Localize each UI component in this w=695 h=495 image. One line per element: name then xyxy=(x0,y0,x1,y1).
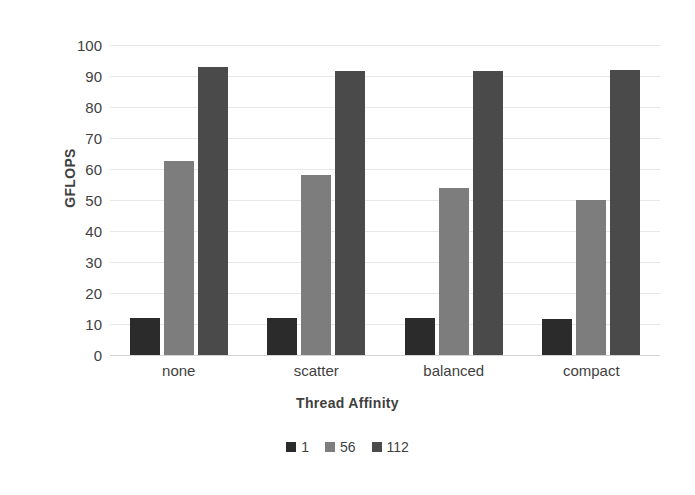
legend-item-1[interactable]: 1 xyxy=(286,440,309,454)
legend-swatch-icon xyxy=(286,442,296,452)
gridline xyxy=(110,355,660,356)
y-axis-tick-label: 10 xyxy=(56,316,102,333)
bar-group xyxy=(110,45,248,355)
bar-chart: GFLOPS 1009080706050403020100 nonescatte… xyxy=(0,0,695,495)
plot-area xyxy=(110,45,660,355)
y-axis-tick-label: 90 xyxy=(56,68,102,85)
bar-compact-112 xyxy=(610,70,640,355)
legend-label: 112 xyxy=(387,440,409,454)
x-axis-category-label: none xyxy=(162,362,195,379)
x-axis-category-label: compact xyxy=(563,362,620,379)
bar-balanced-1 xyxy=(405,318,435,355)
bar-scatter-1 xyxy=(267,318,297,355)
bar-compact-56 xyxy=(576,200,606,355)
legend-label: 56 xyxy=(340,440,356,454)
y-axis-tick-label: 40 xyxy=(56,223,102,240)
bar-balanced-56 xyxy=(439,188,469,355)
y-axis-tick-label: 30 xyxy=(56,254,102,271)
x-axis-category-labels: nonescatterbalancedcompact xyxy=(110,362,660,388)
y-axis-tick-labels: 1009080706050403020100 xyxy=(46,45,102,355)
bar-scatter-112 xyxy=(335,71,365,355)
y-axis-tick-label: 50 xyxy=(56,192,102,209)
y-axis-tick-label: 0 xyxy=(56,347,102,364)
x-axis-category-label: scatter xyxy=(294,362,339,379)
y-axis-tick-label: 20 xyxy=(56,285,102,302)
legend-item-56[interactable]: 56 xyxy=(325,440,356,454)
chart-legend: 156112 xyxy=(0,440,695,454)
bar-balanced-112 xyxy=(473,71,503,355)
bar-none-112 xyxy=(198,67,228,355)
x-axis-category-label: balanced xyxy=(423,362,484,379)
x-axis-title: Thread Affinity xyxy=(0,395,695,411)
bar-scatter-56 xyxy=(301,175,331,355)
legend-swatch-icon xyxy=(372,442,382,452)
bar-group xyxy=(248,45,386,355)
y-axis-tick-label: 100 xyxy=(56,37,102,54)
legend-swatch-icon xyxy=(325,442,335,452)
bar-none-1 xyxy=(130,318,160,355)
y-axis-tick-label: 60 xyxy=(56,161,102,178)
bar-group xyxy=(385,45,523,355)
legend-item-112[interactable]: 112 xyxy=(372,440,409,454)
y-axis-tick-label: 80 xyxy=(56,99,102,116)
legend-label: 1 xyxy=(301,440,309,454)
y-axis-tick-label: 70 xyxy=(56,130,102,147)
bar-compact-1 xyxy=(542,319,572,355)
bar-group xyxy=(523,45,661,355)
bar-none-56 xyxy=(164,161,194,355)
